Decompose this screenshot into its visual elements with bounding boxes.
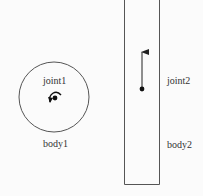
joint2-dot <box>140 87 145 92</box>
body2-rectangle <box>125 0 160 185</box>
joint1-label: joint1 <box>42 75 66 86</box>
body2-label: body2 <box>167 139 192 150</box>
body1-label: body1 <box>43 138 68 149</box>
joint1-dot <box>53 96 58 101</box>
joint2-label: joint2 <box>166 75 190 86</box>
diagram-canvas: joint1 body1 joint2 body2 <box>0 0 203 196</box>
